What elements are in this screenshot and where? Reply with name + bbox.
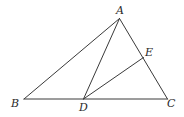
label-b: B: [10, 97, 19, 110]
segment-ab: [24, 19, 120, 100]
segment-ca: [120, 19, 168, 100]
label-c: C: [167, 97, 176, 110]
triangle-diagram: A B C D E: [0, 0, 184, 117]
label-d: D: [78, 101, 88, 114]
label-e: E: [144, 46, 153, 59]
label-a: A: [115, 4, 124, 17]
